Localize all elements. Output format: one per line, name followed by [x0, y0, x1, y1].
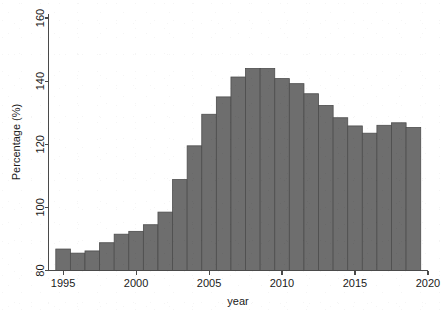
bar — [202, 114, 217, 270]
bar — [304, 94, 319, 271]
bar — [260, 69, 275, 271]
bar — [187, 146, 202, 271]
x-axis-title: year — [227, 295, 249, 307]
bar — [216, 97, 231, 271]
bar — [56, 249, 71, 270]
y-tick-label: 160 — [34, 9, 46, 27]
y-tick-label: 120 — [34, 135, 46, 153]
bar — [406, 128, 421, 271]
chart-canvas: 80100120140160 199520002005201020152020 … — [0, 0, 445, 322]
x-tick-label: 2015 — [343, 277, 367, 289]
bar — [289, 84, 304, 271]
y-tick-label: 100 — [34, 198, 46, 216]
x-tick-label: 2020 — [416, 277, 440, 289]
bar — [362, 133, 377, 270]
x-tick-label: 2000 — [124, 277, 148, 289]
y-axis-title: Percentage (%) — [10, 104, 22, 180]
bar — [129, 231, 144, 270]
bar — [275, 79, 290, 271]
bar — [100, 243, 115, 271]
x-tick-label: 2010 — [270, 277, 294, 289]
bar — [348, 126, 363, 271]
bar — [158, 212, 173, 270]
bar-chart-figure: 80100120140160 199520002005201020152020 … — [0, 0, 445, 322]
x-tick-label: 2005 — [197, 277, 221, 289]
bar — [392, 123, 407, 271]
bar — [70, 253, 85, 270]
x-tick-label: 1995 — [51, 277, 75, 289]
y-tick-label: 140 — [34, 72, 46, 90]
bar — [231, 77, 246, 270]
bar — [377, 125, 392, 270]
y-tick-label: 80 — [34, 264, 46, 276]
bar — [173, 180, 188, 271]
bar — [333, 118, 348, 271]
bar — [143, 225, 158, 271]
bar — [85, 251, 100, 271]
bar — [319, 105, 334, 270]
bar — [246, 69, 261, 271]
bar — [114, 234, 129, 270]
